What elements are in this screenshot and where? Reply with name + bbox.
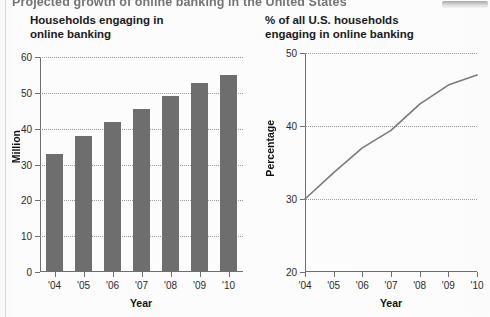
line-chart-plot-area	[305, 53, 477, 272]
bar	[104, 122, 121, 273]
x-tick-mark	[171, 272, 172, 277]
x-tick-label: '05	[327, 280, 340, 291]
bar	[46, 154, 63, 272]
bar-chart-panel: Households engaging in online banking Mi…	[0, 0, 250, 317]
line-chart-panel: % of all U.S. households engaging in onl…	[250, 0, 490, 317]
bar	[220, 75, 237, 272]
bar	[75, 136, 92, 272]
y-tick-mark	[35, 272, 40, 273]
y-tick-label: 30	[286, 194, 297, 205]
gridline	[40, 57, 243, 58]
line-chart-series	[305, 53, 477, 272]
y-tick-mark	[35, 93, 40, 94]
y-tick-mark	[35, 57, 40, 58]
x-tick-mark	[477, 272, 478, 277]
y-tick-mark	[300, 199, 305, 200]
y-tick-mark	[300, 126, 305, 127]
x-tick-label: '06	[106, 280, 119, 291]
x-tick-label: '06	[356, 280, 369, 291]
x-tick-label: '08	[413, 280, 426, 291]
bar	[191, 83, 208, 272]
bar-chart-x-axis-title: Year	[130, 297, 152, 309]
x-tick-label: '07	[135, 280, 148, 291]
x-tick-label: '09	[442, 280, 455, 291]
bar	[162, 96, 179, 272]
x-tick-mark	[362, 272, 363, 277]
y-tick-mark	[35, 165, 40, 166]
x-tick-mark	[229, 272, 230, 277]
y-tick-mark	[300, 53, 305, 54]
y-tick-label: 40	[286, 121, 297, 132]
x-tick-mark	[305, 272, 306, 277]
chart-page: Projected growth of online banking in th…	[0, 0, 490, 317]
line-chart-title: % of all U.S. households engaging in onl…	[265, 14, 480, 41]
line-chart-y-axis-title: Percentage	[264, 120, 276, 177]
line-chart-x-axis-title: Year	[380, 297, 402, 309]
gridline	[40, 93, 243, 94]
y-tick-label: 0	[26, 267, 32, 278]
y-tick-label: 60	[21, 52, 32, 63]
x-tick-mark	[334, 272, 335, 277]
line-path	[305, 75, 477, 199]
bar-chart-title: Households engaging in online banking	[30, 14, 230, 41]
x-tick-label: '09	[193, 280, 206, 291]
x-tick-mark	[84, 272, 85, 277]
y-tick-label: 10	[21, 231, 32, 242]
x-tick-mark	[55, 272, 56, 277]
x-tick-mark	[200, 272, 201, 277]
x-tick-label: '04	[298, 280, 311, 291]
x-tick-mark	[391, 272, 392, 277]
y-tick-mark	[35, 129, 40, 130]
y-tick-label: 50	[286, 48, 297, 59]
y-tick-label: 20	[286, 267, 297, 278]
y-tick-label: 20	[21, 195, 32, 206]
x-tick-mark	[448, 272, 449, 277]
x-tick-label: '08	[164, 280, 177, 291]
bar-chart-plot-area	[40, 57, 243, 272]
bar	[133, 109, 150, 272]
x-tick-label: '10	[470, 280, 483, 291]
x-tick-label: '10	[222, 280, 235, 291]
y-tick-label: 40	[21, 123, 32, 134]
x-tick-label: '04	[48, 280, 61, 291]
x-tick-label: '07	[384, 280, 397, 291]
x-tick-mark	[420, 272, 421, 277]
x-tick-mark	[113, 272, 114, 277]
x-tick-label: '05	[77, 280, 90, 291]
y-tick-label: 50	[21, 87, 32, 98]
y-tick-mark	[35, 236, 40, 237]
x-tick-mark	[142, 272, 143, 277]
y-tick-label: 30	[21, 159, 32, 170]
y-tick-mark	[35, 200, 40, 201]
